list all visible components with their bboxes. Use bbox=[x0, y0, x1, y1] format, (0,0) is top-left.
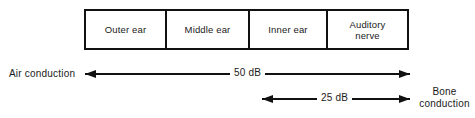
air-conduction-label: Air conduction bbox=[9, 68, 75, 80]
ear-pathway-box: Outer ear Middle ear Inner ear Auditory … bbox=[84, 9, 409, 50]
pathway-segment-outer-ear: Outer ear bbox=[86, 11, 165, 48]
bone-conduction-value: 25 dB bbox=[317, 91, 352, 104]
pathway-segment-middle-ear: Middle ear bbox=[165, 11, 248, 48]
bone-arrow-left-head-icon bbox=[262, 95, 273, 103]
air-conduction-value: 50 dB bbox=[230, 66, 265, 79]
bone-arrow-right-head-icon bbox=[399, 95, 410, 103]
air-arrow-right-head-icon bbox=[399, 70, 410, 78]
pathway-segment-auditory-nerve: Auditory nerve bbox=[326, 11, 407, 48]
air-conduction-arrow: 50 dB bbox=[85, 67, 410, 81]
conduction-diagram: Outer ear Middle ear Inner ear Auditory … bbox=[0, 0, 475, 118]
air-arrow-left-head-icon bbox=[85, 70, 96, 78]
bone-conduction-arrow: 25 dB bbox=[262, 92, 410, 106]
bone-conduction-label: Bone conduction bbox=[414, 86, 475, 109]
pathway-segment-inner-ear: Inner ear bbox=[248, 11, 326, 48]
